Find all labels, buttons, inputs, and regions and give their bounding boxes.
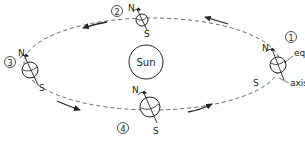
axis-callout: axis bbox=[290, 78, 305, 88]
equator-callout: equator bbox=[294, 48, 305, 58]
south-label: S bbox=[39, 83, 45, 93]
sun-label: Sun bbox=[136, 57, 155, 68]
orbit-diagram: Sun N S 1 equator axis N S 2 N S 3 bbox=[0, 0, 305, 147]
arrow-icon bbox=[83, 22, 107, 28]
earth-position-2: N S 2 bbox=[112, 3, 151, 39]
earth-position-3: N S 3 bbox=[5, 48, 46, 93]
north-label: N bbox=[262, 43, 269, 53]
north-label: N bbox=[132, 85, 139, 95]
earth-position-1: N S 1 equator axis bbox=[253, 32, 305, 89]
position-number: 4 bbox=[120, 125, 125, 134]
earth-globe bbox=[22, 62, 38, 78]
arrow-icon bbox=[205, 17, 228, 24]
north-label: N bbox=[18, 48, 25, 58]
earth-position-4: N S 4 bbox=[118, 85, 161, 136]
sun: Sun bbox=[129, 45, 163, 79]
south-label: S bbox=[253, 78, 259, 88]
position-number: 1 bbox=[288, 34, 293, 43]
north-label: N bbox=[128, 3, 135, 13]
south-label: S bbox=[144, 29, 150, 39]
equator-callout-line bbox=[284, 56, 293, 63]
arrow-icon bbox=[188, 104, 212, 112]
position-number: 3 bbox=[7, 59, 12, 68]
position-number: 2 bbox=[114, 8, 119, 17]
axis-callout-line bbox=[279, 78, 289, 83]
arrow-icon bbox=[57, 101, 80, 110]
south-label: S bbox=[153, 126, 159, 136]
